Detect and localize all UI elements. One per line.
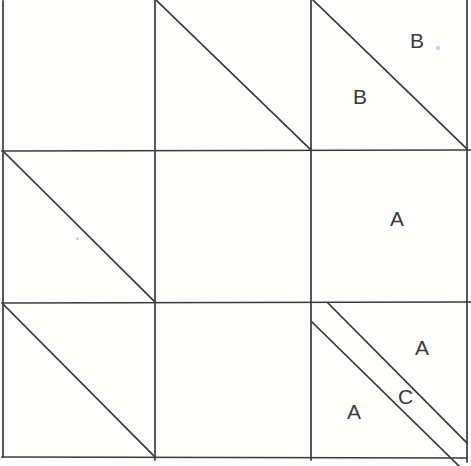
diagonal-r2c2-lower [312,322,459,466]
diagonal-r0c2 [313,0,466,148]
label-c-bottom-strip: C [398,386,413,407]
grid-horizontal-2 [2,302,471,303]
label-a-bottom-upper: A [415,337,429,358]
label-a-bottom-lower: A [347,401,361,422]
label-b-lower-left: B [353,86,367,107]
label-b-upper-right: B [410,30,424,51]
diagonal-r0c1 [156,0,310,149]
diagonal-r1c0 [4,152,155,302]
grid-horizontal-1 [2,150,471,151]
diagonal-r2c0 [4,305,155,457]
figure-canvas: BBAACA [0,0,471,466]
paper-speck [436,46,440,50]
paper-speck [76,237,79,240]
border-bottom [2,457,467,458]
label-a-middle-right: A [390,208,404,229]
